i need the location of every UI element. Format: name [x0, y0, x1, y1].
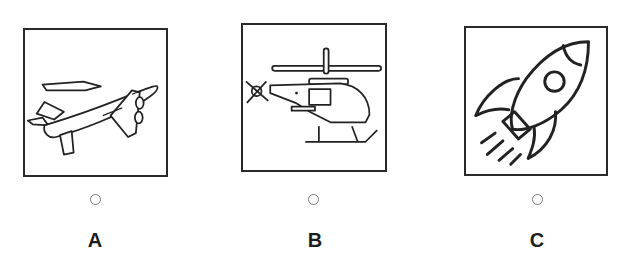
option-a-radio[interactable] [90, 194, 101, 205]
option-b-radio[interactable] [308, 194, 319, 205]
helicopter-icon [243, 25, 385, 170]
option-c-image-box [464, 26, 608, 176]
option-a-label: A [75, 229, 115, 252]
option-b-image-box [241, 23, 387, 172]
rocket-icon [466, 28, 606, 174]
airplane-icon [25, 30, 166, 175]
option-c-radio[interactable] [532, 194, 543, 205]
option-c-label: C [517, 229, 557, 252]
option-b-label: B [295, 229, 335, 252]
option-a-image-box [23, 28, 168, 177]
